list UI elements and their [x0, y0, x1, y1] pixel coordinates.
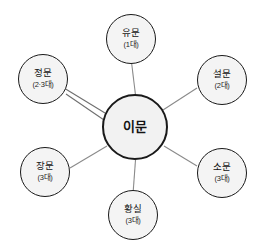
- edge-center-to-hwangsil: [133, 160, 136, 194]
- node-hwangsil[interactable]: 황실 (3대): [108, 190, 158, 240]
- node-jeongmun-label: 정문: [34, 68, 52, 79]
- node-yumun-label: 유문: [122, 28, 140, 39]
- node-yumun-sub: (1대): [124, 41, 139, 50]
- edge-center-to-jeongmun-a: [64, 88, 105, 113]
- edge-center-to-jeongmun-b: [66, 94, 104, 120]
- node-yumun[interactable]: 유문 (1대): [106, 14, 156, 64]
- node-center-imun-label: 이문: [123, 120, 147, 135]
- node-somun[interactable]: 소문 (3대): [197, 148, 247, 198]
- node-jangmun[interactable]: 장문 (3대): [20, 147, 70, 197]
- node-hwangsil-label: 황실: [124, 204, 142, 215]
- node-seolmun-sub: (2대): [215, 82, 230, 91]
- node-seolmun[interactable]: 설문 (2대): [197, 55, 247, 105]
- node-jeongmun-sub: (2·3대): [32, 81, 53, 90]
- node-jangmun-sub: (3대): [38, 174, 53, 183]
- node-jeongmun[interactable]: 정문 (2·3대): [18, 54, 68, 104]
- node-somun-label: 소문: [213, 162, 231, 173]
- node-somun-sub: (3대): [215, 175, 230, 184]
- node-hwangsil-sub: (3대): [126, 217, 141, 226]
- edge-center-to-somun: [164, 146, 197, 166]
- node-jangmun-label: 장문: [36, 161, 54, 172]
- edge-center-to-jangmun: [70, 146, 107, 168]
- diagram-canvas: 유문 (1대) 설문 (2대) 소문 (3대) 황실 (3대) 장문 (3대) …: [0, 0, 263, 252]
- node-center-imun[interactable]: 이문: [102, 94, 168, 160]
- node-seolmun-label: 설문: [213, 69, 231, 80]
- edge-center-to-seolmun: [163, 88, 197, 110]
